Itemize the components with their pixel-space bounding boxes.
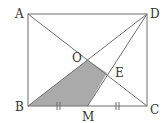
shaded-quadrilateral-boem <box>28 60 107 106</box>
label-e: E <box>115 66 124 80</box>
label-m: M <box>82 110 94 123</box>
geometry-diagram: A D B C O E M <box>0 0 166 123</box>
label-c: C <box>150 103 159 117</box>
label-o: O <box>72 51 82 65</box>
label-b: B <box>15 100 24 114</box>
label-a: A <box>14 7 24 21</box>
label-d: D <box>150 7 160 21</box>
segment-dm <box>88 14 148 106</box>
